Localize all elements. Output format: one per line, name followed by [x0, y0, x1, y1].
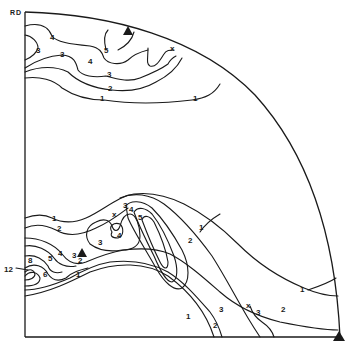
markers: x x x	[77, 26, 345, 341]
pole-figure-svg: RD	[0, 0, 347, 347]
pole-figure: RD	[0, 0, 347, 347]
cross-marker-right: x	[246, 301, 251, 310]
contour-label: 4	[58, 249, 63, 258]
contour-label: 1	[300, 285, 305, 294]
contour-label: 3	[219, 305, 224, 314]
contour-label: 3	[72, 251, 77, 260]
cross-marker-top: x	[170, 44, 175, 53]
contour-label: 1	[100, 94, 105, 103]
contour-label: 3	[98, 238, 103, 247]
contour-label: 2	[281, 305, 286, 314]
cross-marker-center: x	[112, 210, 117, 219]
contour-label: 1	[193, 94, 198, 103]
contour-label: 1	[186, 312, 191, 321]
contour-label: 2	[188, 236, 193, 245]
contour-label: 1	[76, 270, 81, 279]
contour-label: 3	[123, 201, 128, 210]
contour-label: 6	[43, 270, 48, 279]
contour-label: 4	[88, 57, 93, 66]
triangle-marker-corner	[333, 331, 345, 341]
contour-label-max: 12	[4, 265, 13, 274]
contour-label: 4	[50, 33, 55, 42]
contour-label: 4	[117, 231, 122, 240]
contour-label: 5	[104, 46, 109, 55]
contour-label: 5	[48, 254, 53, 263]
contour-label: 3	[60, 50, 65, 59]
contour-label: 1	[199, 223, 204, 232]
contour-label: 4	[129, 205, 134, 214]
max-label-leader	[16, 268, 28, 270]
contour-label: 3	[36, 46, 41, 55]
contour-label: 8	[28, 256, 33, 265]
contour-label: 2	[213, 321, 218, 330]
contour-label: 1	[52, 214, 57, 223]
contour-label: 3	[107, 70, 112, 79]
contour-label: 2	[108, 84, 113, 93]
contour-label: 2	[57, 224, 62, 233]
rd-axis-label: RD	[10, 9, 22, 16]
middle-contours	[25, 193, 338, 337]
contour-label: 2	[78, 256, 83, 265]
contour-label: 5	[138, 213, 143, 222]
contour-label: 3	[256, 308, 261, 317]
